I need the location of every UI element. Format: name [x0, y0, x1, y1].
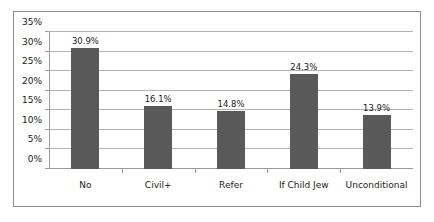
bar[interactable]: [290, 74, 318, 169]
y-tick-label: 10%: [22, 115, 42, 125]
x-axis-category-label: No: [79, 180, 91, 190]
x-axis-category-label: Refer: [219, 180, 243, 190]
x-axis-category-label: Unconditional: [346, 180, 408, 190]
x-tick-mark: [267, 169, 268, 173]
x-axis-category-label: Civil+: [145, 180, 172, 190]
y-tick-label: 35%: [22, 17, 42, 27]
bar[interactable]: [71, 48, 99, 169]
bar-group[interactable]: 30.9%No: [49, 32, 122, 169]
x-tick-mark: [340, 169, 341, 173]
bar[interactable]: [144, 106, 172, 169]
x-tick-mark: [122, 169, 123, 173]
bar-value-label: 14.8%: [217, 99, 244, 109]
bar-value-label: 24.3%: [290, 62, 317, 72]
x-axis-category-label: If Child Jew: [279, 180, 329, 190]
y-tick-label: 20%: [22, 76, 42, 86]
y-tick-label: 25%: [22, 56, 42, 66]
bar[interactable]: [363, 115, 391, 169]
chart-frame: 0%5%10%15%20%25%30%35% 30.9%No16.1%Civil…: [13, 11, 421, 207]
bar[interactable]: [217, 111, 245, 169]
bar-group[interactable]: 24.3%If Child Jew: [267, 32, 340, 169]
y-tick-label: 30%: [22, 37, 42, 47]
bar-group[interactable]: 14.8%Refer: [195, 32, 268, 169]
bar-group[interactable]: 16.1%Civil+: [122, 32, 195, 169]
bar-value-label: 30.9%: [72, 36, 99, 46]
x-tick-mark: [195, 169, 196, 173]
y-tick-label: 5%: [28, 134, 42, 144]
y-tick-label: 0%: [28, 154, 42, 164]
bar-group[interactable]: 13.9%Unconditional: [340, 32, 413, 169]
plot-area: 0%5%10%15%20%25%30%35% 30.9%No16.1%Civil…: [49, 32, 413, 169]
bar-value-label: 13.9%: [363, 103, 390, 113]
bar-value-label: 16.1%: [145, 94, 172, 104]
y-tick-label: 15%: [22, 95, 42, 105]
